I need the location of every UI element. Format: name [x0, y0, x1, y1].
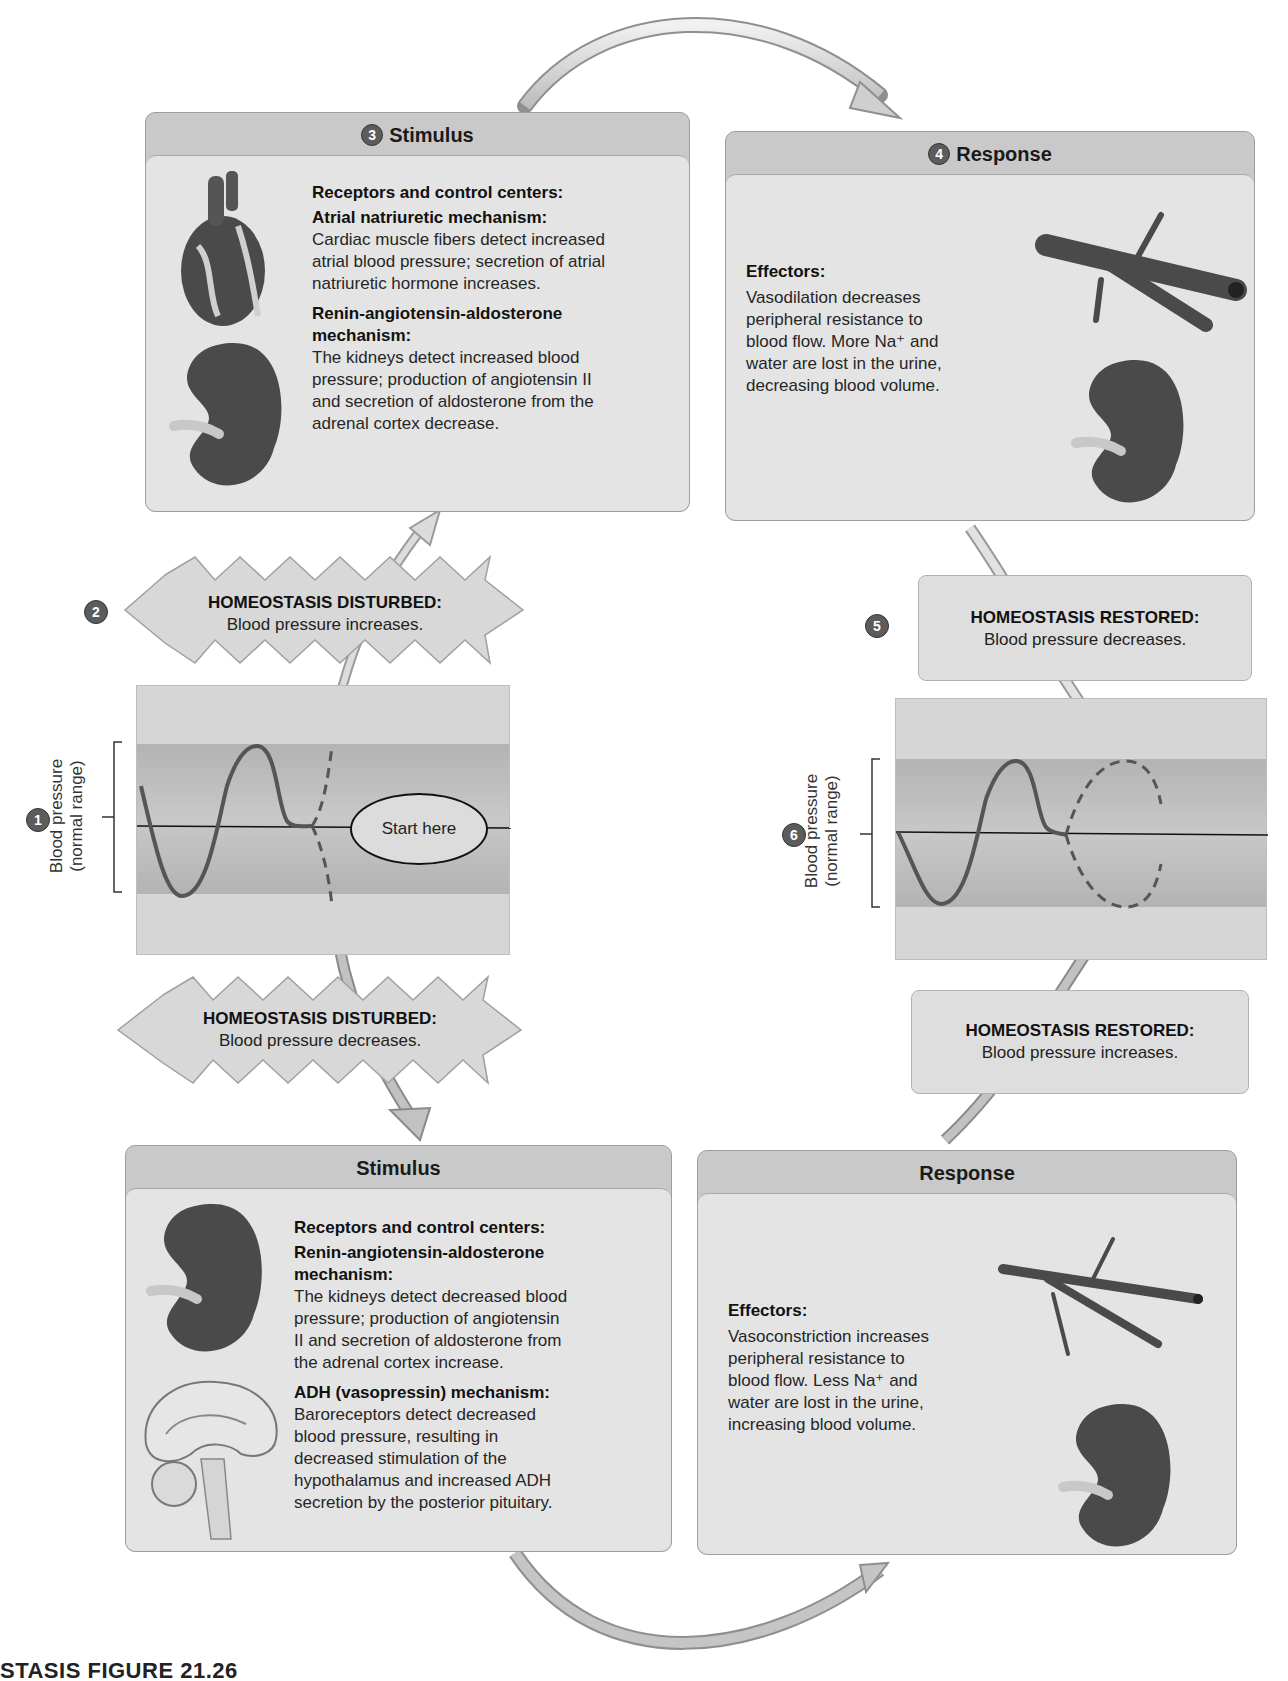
disturbed-heading: HOMEOSTASIS DISTURBED:	[145, 1008, 495, 1030]
disturbed-text: Blood pressure decreases.	[219, 1031, 421, 1050]
raas-heading: Renin-angiotensin-aldosterone	[312, 303, 682, 325]
bottom-response-panel: Response Effectors: Vasoconstriction inc…	[697, 1150, 1237, 1555]
text-line: hypothalamus and increased ADH	[294, 1470, 664, 1492]
text-line: pressure; production of angiotensin II	[312, 369, 682, 391]
text-line: II and secretion of aldosterone from	[294, 1330, 664, 1352]
text-line: decreased stimulation of the	[294, 1448, 664, 1470]
text-line: Vasoconstriction increases	[728, 1326, 1008, 1348]
restored-increase-label: HOMEOSTASIS RESTORED: Blood pressure inc…	[911, 1020, 1249, 1064]
left-blood-pressure-graph: Start here	[136, 685, 510, 955]
text-line: water are lost in the urine,	[746, 353, 1026, 375]
brain-icon	[136, 1374, 286, 1544]
bottom-stimulus-panel: Stimulus Receptors and control centers: …	[125, 1145, 672, 1552]
axis-label-line1: Blood pressure	[802, 774, 821, 888]
text-line: atrial blood pressure; secretion of atri…	[312, 251, 682, 273]
text-line: peripheral resistance to	[746, 309, 1026, 331]
start-here-label: Start here	[382, 819, 457, 839]
right-graph-curve	[896, 699, 1268, 961]
heart-icon	[168, 166, 278, 336]
text-line: blood flow. More Na⁺ and	[746, 331, 1026, 353]
top-response-panel: 4 Response Effectors: Vasodilation decre…	[725, 131, 1255, 521]
step-badge-5: 5	[865, 614, 889, 638]
disturbed-decrease-label: HOMEOSTASIS DISTURBED: Blood pressure de…	[145, 1008, 495, 1052]
disturbed-heading: HOMEOSTASIS DISTURBED:	[150, 592, 500, 614]
text-line: Cardiac muscle fibers detect increased	[312, 229, 682, 251]
step-badge-2: 2	[84, 600, 108, 624]
bottom-response-header: Response	[698, 1151, 1236, 1195]
start-here-oval: Start here	[350, 793, 488, 865]
constricted-blood-vessel-icon	[998, 1234, 1218, 1374]
adh-heading: ADH (vasopressin) mechanism:	[294, 1382, 664, 1404]
right-graph-axis-label: Blood pressure (normal range)	[802, 746, 842, 916]
restored-text: Blood pressure decreases.	[984, 630, 1186, 649]
step-badge-4: 4	[928, 143, 950, 165]
text-line: the adrenal cortex increase.	[294, 1352, 664, 1374]
dilated-blood-vessel-icon	[1036, 205, 1246, 335]
axis-label-line2: (normal range)	[822, 775, 841, 887]
top-arc-arrow	[525, 25, 900, 118]
bottom-response-text: Effectors: Vasoconstriction increases pe…	[728, 1300, 1008, 1436]
text-line: water are lost in the urine,	[728, 1392, 1008, 1414]
bottom-stimulus-title: Stimulus	[356, 1157, 440, 1180]
top-stimulus-header: 3 Stimulus	[146, 113, 689, 157]
top-response-text: Effectors: Vasodilation decreases periph…	[746, 261, 1026, 397]
text-line: decreasing blood volume.	[746, 375, 1026, 397]
figure-caption: STASIS FIGURE 21.26	[0, 1658, 238, 1681]
restored-heading: HOMEOSTASIS RESTORED:	[911, 1020, 1249, 1042]
text-line: peripheral resistance to	[728, 1348, 1008, 1370]
restored-heading: HOMEOSTASIS RESTORED:	[918, 607, 1252, 629]
top-stimulus-text: Receptors and control centers: Atrial na…	[312, 182, 682, 435]
receptors-heading: Receptors and control centers:	[294, 1217, 664, 1239]
kidney-icon	[151, 1199, 266, 1364]
top-response-body: Effectors: Vasodilation decreases periph…	[726, 174, 1254, 520]
text-line: secretion by the posterior pituitary.	[294, 1492, 664, 1514]
raas-heading: Renin-angiotensin-aldosterone	[294, 1242, 664, 1264]
bottom-stimulus-header: Stimulus	[126, 1146, 671, 1190]
figure-label: STASIS FIGURE 21.26	[0, 1658, 238, 1681]
text-line: Baroreceptors detect decreased	[294, 1404, 664, 1426]
text-line: blood pressure, resulting in	[294, 1426, 664, 1448]
normal-range-bracket	[858, 757, 888, 912]
top-response-title: Response	[956, 143, 1052, 166]
restored-text: Blood pressure increases.	[982, 1043, 1179, 1062]
bottom-response-body: Effectors: Vasoconstriction increases pe…	[698, 1193, 1236, 1554]
atrial-mechanism-heading: Atrial natriuretic mechanism:	[312, 207, 682, 229]
text-line: blood flow. Less Na⁺ and	[728, 1370, 1008, 1392]
effectors-heading: Effectors:	[728, 1300, 1008, 1322]
right-blood-pressure-graph	[895, 698, 1267, 960]
step-badge-3: 3	[361, 124, 383, 146]
text-line: The kidneys detect increased blood	[312, 347, 682, 369]
left-graph-axis-label: Blood pressure (normal range)	[47, 731, 87, 901]
bottom-arc-arrow	[515, 1553, 888, 1643]
bottom-stimulus-text: Receptors and control centers: Renin-ang…	[294, 1217, 664, 1514]
bottom-stimulus-body: Receptors and control centers: Renin-ang…	[126, 1188, 671, 1551]
text-line: The kidneys detect decreased blood	[294, 1286, 664, 1308]
text-line: increasing blood volume.	[728, 1414, 1008, 1436]
axis-label-line1: Blood pressure	[47, 759, 66, 873]
text-line: adrenal cortex decrease.	[312, 413, 682, 435]
axis-label-line2: (normal range)	[67, 760, 86, 872]
restored-decrease-label: HOMEOSTASIS RESTORED: Blood pressure dec…	[918, 607, 1252, 651]
kidney-icon	[1076, 355, 1186, 515]
disturbed-text: Blood pressure increases.	[227, 615, 424, 634]
kidney-icon	[1063, 1399, 1173, 1559]
effectors-heading: Effectors:	[746, 261, 1026, 283]
receptors-heading: Receptors and control centers:	[312, 182, 682, 204]
raas-heading: mechanism:	[312, 325, 682, 347]
normal-range-bracket	[100, 740, 130, 895]
text-line: Vasodilation decreases	[746, 287, 1026, 309]
top-stimulus-body: Receptors and control centers: Atrial na…	[146, 155, 689, 511]
kidney-icon	[174, 338, 284, 498]
text-line: pressure; production of angiotensin	[294, 1308, 664, 1330]
top-stimulus-title: Stimulus	[389, 124, 473, 147]
top-response-header: 4 Response	[726, 132, 1254, 176]
raas-heading: mechanism:	[294, 1264, 664, 1286]
top-stimulus-panel: 3 Stimulus Receptors and control centers…	[145, 112, 690, 512]
bottom-response-title: Response	[919, 1162, 1015, 1185]
text-line: and secretion of aldosterone from the	[312, 391, 682, 413]
disturbed-increase-label: HOMEOSTASIS DISTURBED: Blood pressure in…	[150, 592, 500, 636]
text-line: natriuretic hormone increases.	[312, 273, 682, 295]
